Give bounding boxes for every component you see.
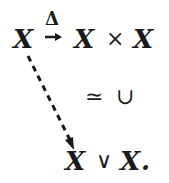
product-right: X	[133, 26, 153, 52]
period: .	[141, 148, 150, 174]
dashed-arrow	[28, 56, 74, 150]
union-symbol: ∪	[116, 86, 134, 108]
wedge-right: X	[120, 148, 140, 174]
wedge-left: X	[65, 148, 85, 174]
iso-symbol: ≃	[85, 86, 103, 108]
product-left: X	[74, 26, 94, 52]
times-operator: ×	[106, 28, 124, 50]
wedge-operator: ∨	[96, 150, 112, 172]
diagonal-arrow	[45, 33, 62, 41]
